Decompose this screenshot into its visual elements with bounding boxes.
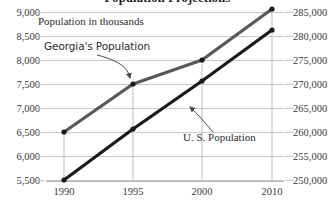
right-tickstub-250000 bbox=[285, 180, 294, 181]
x-tick-1990: 1990 bbox=[54, 186, 75, 197]
x-tick-2010: 2010 bbox=[262, 186, 283, 197]
left-axis-tick-7000: 7,000 bbox=[0, 103, 40, 114]
left-tickstub-7500 bbox=[36, 84, 45, 85]
right-tickstub-280000 bbox=[285, 36, 294, 37]
right-tickstub-255000 bbox=[285, 156, 294, 157]
population-projections-chart: Population Projections 9,000 8,500 8,000… bbox=[0, 0, 335, 205]
left-axis-tick-9000: 9,000 bbox=[0, 7, 40, 18]
gridline-9000 bbox=[46, 12, 284, 13]
gridline-6000 bbox=[46, 156, 284, 157]
right-tickstub-270000 bbox=[285, 84, 294, 85]
gridline-8500 bbox=[46, 36, 284, 37]
left-tickstub-8500 bbox=[36, 36, 45, 37]
left-tickstub-9000 bbox=[36, 12, 45, 13]
right-tickstub-260000 bbox=[285, 132, 294, 133]
right-axis-tick-285000: 285,000 bbox=[293, 7, 335, 18]
right-axis-tick-265000: 265,000 bbox=[293, 103, 335, 114]
plot-area bbox=[46, 6, 284, 182]
x-axis-line bbox=[46, 181, 284, 182]
left-tickstub-6500 bbox=[36, 132, 45, 133]
left-tickstub-5500 bbox=[36, 180, 45, 181]
us-series-callout-label: U. S. Population bbox=[183, 131, 256, 143]
left-tickstub-7000 bbox=[36, 108, 45, 109]
georgia-series-callout-label: Georgia's Population bbox=[44, 40, 150, 52]
left-tickstub-8000 bbox=[36, 60, 45, 61]
right-axis-tick-270000: 270,000 bbox=[293, 79, 335, 90]
right-axis-tick-275000: 275,000 bbox=[293, 55, 335, 66]
right-axis-tick-260000: 260,000 bbox=[293, 127, 335, 138]
left-axis-tick-7500: 7,500 bbox=[0, 79, 40, 90]
left-axis-tick-8500: 8,500 bbox=[0, 31, 40, 42]
left-axis-tick-6500: 6,500 bbox=[0, 127, 40, 138]
gridline-7000 bbox=[46, 108, 284, 109]
gridline-8000 bbox=[46, 60, 284, 61]
right-axis-tick-250000: 250,000 bbox=[293, 175, 335, 186]
right-tickstub-285000 bbox=[285, 12, 294, 13]
left-axis-tick-5500: 5,500 bbox=[0, 175, 40, 186]
x-tick-2000: 2000 bbox=[192, 186, 213, 197]
left-axis-tick-6000: 6,000 bbox=[0, 151, 40, 162]
right-axis-tick-280000: 280,000 bbox=[293, 31, 335, 42]
right-tickstub-265000 bbox=[285, 108, 294, 109]
x-tick-1995: 1995 bbox=[123, 186, 144, 197]
left-axis-tick-8000: 8,000 bbox=[0, 55, 40, 66]
units-note: Population in thousands bbox=[38, 15, 144, 27]
right-axis-tick-255000: 255,000 bbox=[293, 151, 335, 162]
gridline-7500 bbox=[46, 84, 284, 85]
left-tickstub-6000 bbox=[36, 156, 45, 157]
right-tickstub-275000 bbox=[285, 60, 294, 61]
